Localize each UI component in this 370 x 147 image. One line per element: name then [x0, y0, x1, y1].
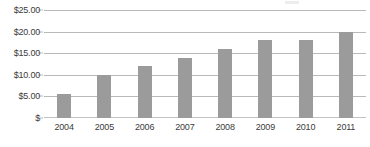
bar-series	[44, 10, 366, 118]
top-edge-artifact	[285, 1, 299, 4]
xlabel-2006: 2006	[135, 122, 154, 132]
xlabel-2008: 2008	[216, 122, 235, 132]
xlabel-2010: 2010	[296, 122, 315, 132]
ytick-label-20: $20.00	[0, 27, 40, 37]
bar-slot-2011	[326, 10, 366, 118]
ytick-label-25: $25.00	[0, 5, 40, 15]
bar-slot-2005	[84, 10, 124, 118]
bar-2006	[138, 66, 152, 118]
xlabel-2005: 2005	[95, 122, 114, 132]
bar-slot-2009	[245, 10, 285, 118]
x-axis-labels: 2004 2005 2006 2007 2008 2009 2010 2011	[44, 122, 366, 142]
bar-2010	[299, 40, 313, 118]
bar-2009	[258, 40, 272, 118]
xlabel-2011: 2011	[337, 122, 356, 132]
ytick-label-0: $	[0, 113, 40, 123]
xlabel-2007: 2007	[175, 122, 194, 132]
bar-2005	[97, 75, 111, 118]
bar-slot-2006	[125, 10, 165, 118]
bar-chart: $25.00 $20.00 $15.00 $10.00 $5.00 $ 2004…	[0, 0, 370, 147]
xlabel-2004: 2004	[55, 122, 74, 132]
ytick-label-5: $5.00	[0, 91, 40, 101]
bar-2011	[339, 32, 353, 118]
bar-2004	[57, 94, 71, 118]
bar-slot-2008	[205, 10, 245, 118]
xlabel-2009: 2009	[256, 122, 275, 132]
bar-2007	[178, 58, 192, 118]
ytick-label-10: $10.00	[0, 70, 40, 80]
bar-slot-2004	[44, 10, 84, 118]
bar-slot-2010	[286, 10, 326, 118]
bar-slot-2007	[165, 10, 205, 118]
bar-2008	[218, 49, 232, 118]
ytick-label-15: $15.00	[0, 48, 40, 58]
